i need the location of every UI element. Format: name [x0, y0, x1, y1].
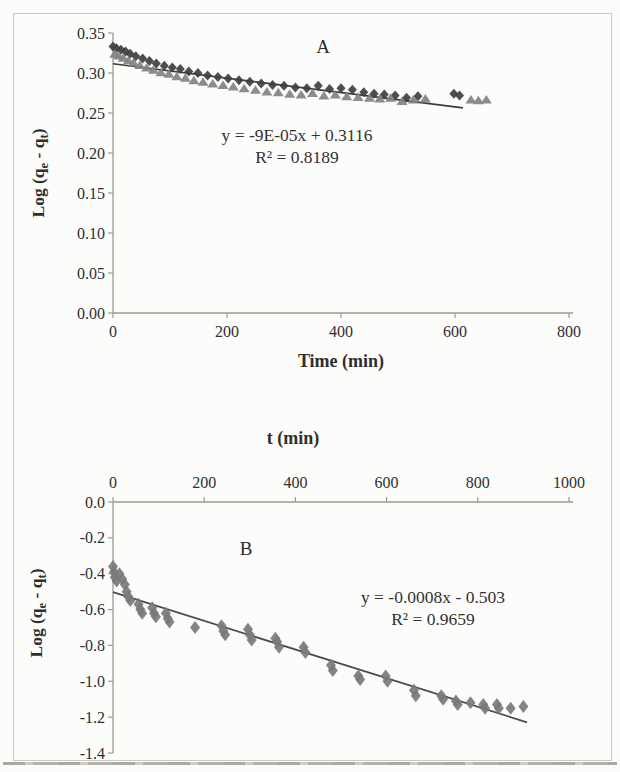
- panel-a-y-tick-label: 0.10: [77, 225, 105, 242]
- panel-a-x-tick-label: 200: [215, 323, 239, 340]
- panel-b-x-tick-label: 400: [283, 474, 307, 491]
- panel-a-r-squared: R² = 0.8189: [222, 146, 373, 168]
- panel-a-data-point-diamond: [193, 68, 202, 78]
- panel-a-x-axis-title: Time (min): [298, 351, 384, 372]
- panel-a-y-tick-label: 0.05: [77, 265, 105, 282]
- panel-b-y-tick-label: -1.4: [80, 745, 105, 762]
- panel-a-y-tick-label: 0.25: [77, 105, 105, 122]
- panel-b-y-tick-label: -1.0: [80, 673, 105, 690]
- panel-a-data-point-diamond: [203, 70, 212, 80]
- panel-b-x-tick-label: 800: [466, 474, 490, 491]
- panel-b-y-axis-title: Log (qe - qt): [26, 568, 51, 657]
- panel-a-data-point-triangle: [250, 85, 261, 94]
- panel-a-y-tick-label: 0.20: [77, 145, 105, 162]
- figure-container: 0.000.050.100.150.200.250.300.3502004006…: [0, 0, 620, 772]
- panel-a-data-point-diamond: [213, 72, 222, 82]
- panel-a-data-point-diamond: [291, 82, 300, 92]
- panel-b-y-tick-label: -0.4: [80, 565, 105, 582]
- panel-a-x-tick-label: 0: [109, 323, 117, 340]
- panel-a-data-point-diamond: [234, 75, 243, 85]
- y-title-text: - q: [26, 579, 46, 603]
- panel-a-y-tick-label: 0.35: [77, 25, 105, 42]
- panel-a-data-point-diamond: [268, 80, 277, 90]
- panel-b-equation: y = -0.0008x - 0.503: [361, 586, 505, 608]
- panel-b-y-tick-label: -1.2: [80, 709, 105, 726]
- panel-b-x-tick-label: 1000: [553, 474, 585, 491]
- panel-a-data-point-diamond: [325, 84, 334, 94]
- panel-a-x-tick-label: 600: [443, 323, 467, 340]
- panel-a-y-tick-label: 0.15: [77, 185, 105, 202]
- panel-a-data-point-diamond: [245, 77, 254, 87]
- panel-a-data-point-triangle: [228, 82, 239, 91]
- panel-b-y-tick-label: 0.0: [85, 494, 105, 511]
- panel-b-data-point-diamond: [466, 696, 476, 709]
- y-title-sub-t: t: [37, 134, 51, 138]
- panel-b-x-tick-label: 600: [375, 474, 399, 491]
- panel-a-data-point-diamond: [224, 74, 233, 84]
- panel-a-label: A: [316, 36, 330, 58]
- panel-b-data-point-diamond: [506, 702, 516, 715]
- panel-b-y-tick-label: -0.2: [80, 529, 105, 546]
- figure-plot-svg: 0.000.050.100.150.200.250.300.3502004006…: [0, 0, 620, 772]
- y-title-text: ): [28, 128, 48, 134]
- y-title-sub-e: e: [35, 603, 49, 609]
- panel-b-data-point-diamond: [518, 700, 528, 713]
- y-title-text: - q: [28, 139, 48, 163]
- panel-b-label: B: [240, 538, 253, 560]
- y-title-text: Log (q: [26, 608, 46, 657]
- panel-b-annotation: y = -0.0008x - 0.503 R² = 0.9659: [361, 586, 505, 630]
- panel-a-data-point-triangle: [318, 91, 329, 100]
- panel-a-data-point-triangle: [261, 87, 272, 96]
- panel-a-y-tick-label: 0.00: [77, 305, 105, 322]
- panel-a-data-point-diamond: [302, 83, 311, 93]
- panel-b-x-tick-label: 200: [192, 474, 216, 491]
- panel-b-y-tick-label: -0.6: [80, 601, 105, 618]
- y-title-text: Log (q: [28, 168, 48, 217]
- panel-b-y-tick-label: -0.8: [80, 637, 105, 654]
- panel-a-data-point-triangle: [273, 88, 284, 97]
- panel-b-x-axis-title: t (min): [267, 428, 320, 449]
- y-title-sub-e: e: [37, 163, 51, 169]
- panel-a-x-tick-label: 400: [329, 323, 353, 340]
- panel-a-y-axis-title: Log (qe - qt): [28, 128, 53, 217]
- panel-a-data-point-diamond: [280, 81, 289, 91]
- panel-a-y-tick-label: 0.30: [77, 65, 105, 82]
- panel-a-data-point-triangle: [481, 95, 492, 104]
- panel-a-equation: y = -9E-05x + 0.3116: [222, 124, 373, 146]
- panel-a-x-tick-label: 800: [557, 323, 581, 340]
- panel-b-x-tick-label: 0: [109, 474, 117, 491]
- panel-b-data-point-diamond: [190, 621, 200, 634]
- panel-a-data-point-diamond: [257, 78, 266, 88]
- panel-a-data-point-triangle: [284, 89, 295, 98]
- y-title-text: ): [26, 568, 46, 574]
- y-title-sub-t: t: [35, 574, 49, 578]
- panel-b-r-squared: R² = 0.9659: [361, 608, 505, 630]
- panel-a-data-point-triangle: [296, 90, 307, 99]
- panel-a-data-point-triangle: [239, 84, 250, 93]
- panel-a-annotation: y = -9E-05x + 0.3116 R² = 0.8189: [222, 124, 373, 168]
